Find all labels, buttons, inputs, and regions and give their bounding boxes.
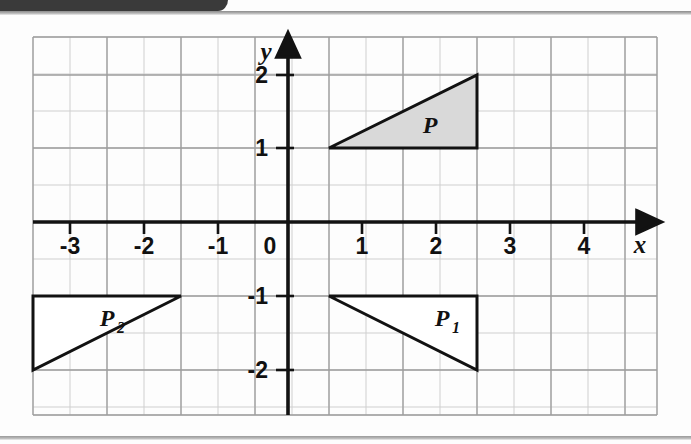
triangle-p1-label-base: P — [434, 305, 450, 331]
x-tick-label--3: -3 — [60, 233, 80, 259]
x-tick-label--2: -2 — [134, 233, 154, 259]
origin-label: 0 — [264, 233, 277, 259]
triangle-p1-label-subscript: 1 — [452, 319, 460, 336]
triangle-p2-label-base: P — [99, 305, 115, 331]
y-tick-label--2: -2 — [248, 357, 268, 383]
y-axis-label: y — [257, 38, 272, 65]
figure-page: -3 -2 -1 1 2 3 4 0 2 1 -1 -2 x y P P 1 — [0, 0, 691, 444]
bottom-divider-rule — [0, 436, 691, 440]
page-header-banner — [0, 0, 228, 11]
x-tick-label-2: 2 — [430, 233, 443, 259]
x-axis-label: x — [633, 231, 647, 258]
x-tick-label-1: 1 — [356, 233, 369, 259]
x-tick-label-4: 4 — [578, 233, 591, 259]
y-tick-label-1: 1 — [255, 135, 268, 161]
triangle-p2-label-subscript: 2 — [116, 319, 125, 336]
y-tick-label--1: -1 — [248, 283, 269, 309]
triangle-p-label: P — [422, 112, 438, 138]
coordinate-grid-figure: -3 -2 -1 1 2 3 4 0 2 1 -1 -2 x y P P 1 — [0, 15, 691, 435]
y-tick-label-2: 2 — [255, 62, 268, 88]
x-tick-label--1: -1 — [208, 233, 229, 259]
x-tick-label-3: 3 — [504, 233, 517, 259]
coordinate-plane-svg: -3 -2 -1 1 2 3 4 0 2 1 -1 -2 x y P P 1 — [0, 15, 691, 435]
major-gridlines — [33, 37, 657, 415]
minor-gridlines — [33, 37, 657, 415]
